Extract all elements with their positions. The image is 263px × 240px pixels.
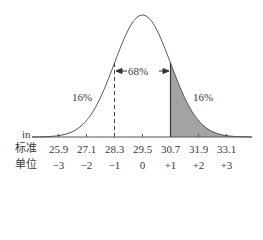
- units-row-label: 单位: [15, 159, 37, 171]
- sd-unit-label: −1: [109, 159, 121, 171]
- sd-unit-label: −3: [53, 159, 65, 171]
- x-value-label: 28.3: [105, 143, 124, 155]
- center-percent-label: 68%: [128, 65, 148, 77]
- sd-unit-label: +2: [193, 159, 205, 171]
- x-value-label: 27.1: [77, 143, 96, 155]
- values-row-label: 标准: [15, 143, 37, 155]
- left-tail-percent-label: 16%: [72, 91, 92, 103]
- x-value-label: 33.1: [217, 143, 236, 155]
- sd-unit-label: 0: [140, 159, 146, 171]
- x-value-label: 31.9: [189, 143, 208, 155]
- x-value-label: 29.5: [133, 143, 152, 155]
- x-value-label: 25.9: [49, 143, 68, 155]
- unit-label: in: [22, 128, 31, 140]
- right-tail-percent-label: 16%: [193, 91, 213, 103]
- x-value-label: 30.7: [161, 143, 180, 155]
- sd-unit-label: +3: [221, 159, 233, 171]
- sd-unit-label: −2: [81, 159, 93, 171]
- sd-unit-label: +1: [165, 159, 177, 171]
